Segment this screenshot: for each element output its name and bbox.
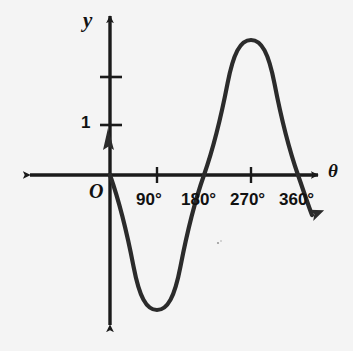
- scan-speck: [217, 240, 222, 244]
- y-axis-label: y: [83, 8, 92, 33]
- graph-canvas: [0, 0, 353, 351]
- x-tick-label-180: 180°: [181, 190, 216, 210]
- origin-label: O: [89, 180, 103, 203]
- theta-axis-label: θ: [328, 160, 338, 182]
- x-tick-label-90: 90°: [136, 190, 162, 210]
- y-tick-label-1: 1: [81, 113, 90, 133]
- x-tick-label-270: 270°: [230, 190, 265, 210]
- x-tick-label-360: 360°: [279, 190, 314, 210]
- sine-graph-figure: y θ O 1 90° 180° 270° 360°: [0, 0, 353, 351]
